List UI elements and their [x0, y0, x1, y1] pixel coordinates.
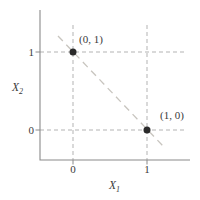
- data-point-0-1: [70, 49, 77, 56]
- y-tick-label-0: 0: [29, 124, 35, 136]
- figure-canvas: (0, 1) (1, 0) 1 0 0 1 X2 X1: [0, 0, 200, 200]
- x-tick-label-1: 1: [144, 163, 150, 175]
- scatter-plot: (0, 1) (1, 0) 1 0 0 1 X2 X1: [0, 0, 200, 200]
- y-axis-label: X2: [11, 81, 23, 96]
- tick-marks: [36, 52, 148, 165]
- point-annotation-1-0: (1, 0): [160, 109, 184, 122]
- x-tick-label-0: 0: [70, 163, 76, 175]
- axes: [40, 10, 190, 160]
- point-annotation-0-1: (0, 1): [79, 33, 103, 46]
- data-point-1-0: [144, 127, 151, 134]
- y-tick-label-1: 1: [29, 46, 35, 58]
- x-axis-label: X1: [108, 179, 120, 194]
